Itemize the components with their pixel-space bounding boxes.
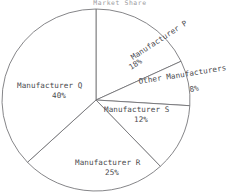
pie-chart-canvas: Market Share Manufacturer P18%Other Manu… (0, 0, 240, 195)
pie-slice-name-label: Manufacturer R (75, 158, 141, 167)
pie-slice-value-label: 25% (105, 168, 119, 177)
pie-slice-name-label: Manufacturer S (104, 105, 170, 114)
pie-slice-value-label: 12% (134, 115, 148, 124)
pie-slice-value-label: 8% (189, 84, 200, 94)
chart-title: Market Share (93, 0, 146, 7)
pie-slice-name-label: Manufacturer Q (17, 81, 83, 90)
pie-slice-value-label: 40% (52, 91, 66, 100)
pie-chart-figure: Market Share Manufacturer P18%Other Manu… (0, 0, 240, 195)
